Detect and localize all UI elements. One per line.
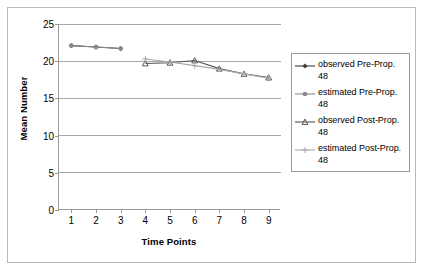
legend-label: observed Post-Prop. 48 xyxy=(318,115,406,138)
x-tick-label: 4 xyxy=(143,215,149,226)
y-tick-mark xyxy=(55,24,59,25)
x-tick-mark xyxy=(195,209,196,213)
x-tick-label: 9 xyxy=(266,215,272,226)
legend-label: observed Pre-Prop. 48 xyxy=(318,59,406,82)
legend-swatch-circle xyxy=(294,88,316,100)
x-tick-mark xyxy=(244,209,245,213)
legend-entry: estimated Post-Prop. 48 xyxy=(294,143,406,166)
y-tick-mark xyxy=(55,136,59,137)
x-tick-mark xyxy=(121,209,122,213)
x-tick-mark xyxy=(269,209,270,213)
data-point-circle xyxy=(94,45,99,50)
y-tick-label: 15 xyxy=(43,93,54,104)
plot-area: 0510152025 123456789 xyxy=(58,24,280,210)
y-tick-label: 25 xyxy=(43,19,54,30)
data-point-circle xyxy=(118,46,123,51)
chart-legend: observed Pre-Prop. 48estimated Pre-Prop.… xyxy=(291,53,410,172)
y-tick-mark xyxy=(55,61,59,62)
data-point-circle xyxy=(303,92,308,97)
x-axis-title: Time Points xyxy=(58,236,280,247)
data-point-diamond xyxy=(302,63,307,68)
x-tick-label: 8 xyxy=(241,215,247,226)
legend-swatch-triangle xyxy=(294,116,316,128)
y-axis-title: Mean Number xyxy=(18,49,29,169)
series-layer xyxy=(69,43,272,81)
y-tick-label: 20 xyxy=(43,56,54,67)
y-tick-label: 5 xyxy=(48,167,54,178)
legend-swatch-cross xyxy=(294,144,316,156)
plot-canvas xyxy=(59,24,281,210)
x-tick-mark xyxy=(96,209,97,213)
y-tick-label: 0 xyxy=(48,205,54,216)
y-tick-mark xyxy=(55,210,59,211)
data-point-circle xyxy=(69,43,74,48)
legend-entry: estimated Pre-Prop. 48 xyxy=(294,87,406,110)
legend-entry: observed Pre-Prop. 48 xyxy=(294,59,406,82)
legend-label: estimated Post-Prop. 48 xyxy=(318,143,406,166)
series-1 xyxy=(69,43,123,51)
x-tick-mark xyxy=(71,209,72,213)
x-tick-label: 2 xyxy=(93,215,99,226)
legend-swatch-diamond xyxy=(294,60,316,72)
legend-label: estimated Pre-Prop. 48 xyxy=(318,87,406,110)
y-tick-mark xyxy=(55,98,59,99)
x-tick-mark xyxy=(219,209,220,213)
data-point-cross xyxy=(192,63,198,69)
x-tick-label: 6 xyxy=(192,215,198,226)
series-line xyxy=(145,59,268,78)
data-point-cross xyxy=(302,147,308,153)
x-tick-label: 5 xyxy=(167,215,173,226)
chart-figure: Mean Number Time Points 0510152025 12345… xyxy=(0,0,427,278)
series-3 xyxy=(142,56,271,81)
x-tick-mark xyxy=(170,209,171,213)
y-tick-mark xyxy=(55,173,59,174)
x-tick-label: 1 xyxy=(69,215,75,226)
x-tick-label: 7 xyxy=(217,215,223,226)
legend-entry: observed Post-Prop. 48 xyxy=(294,115,406,138)
x-tick-mark xyxy=(145,209,146,213)
x-tick-label: 3 xyxy=(118,215,124,226)
y-tick-label: 10 xyxy=(43,130,54,141)
